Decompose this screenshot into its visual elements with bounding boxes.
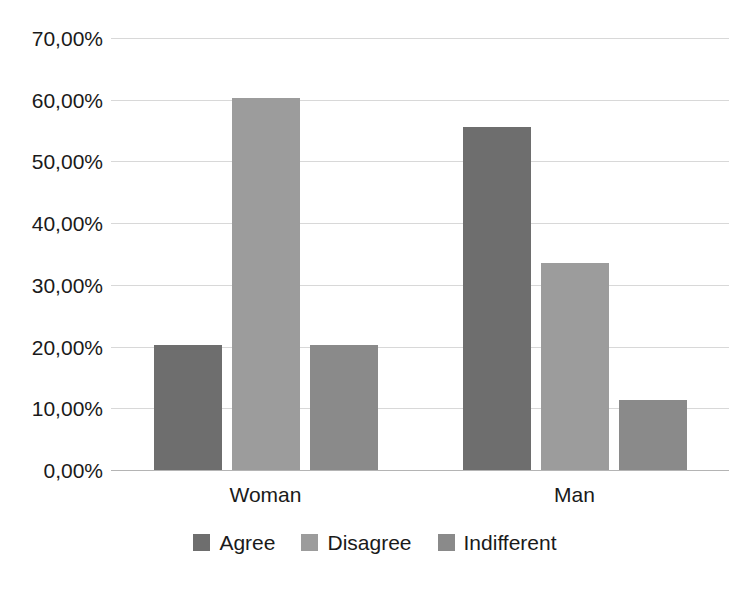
bar-agree-woman	[154, 345, 222, 470]
legend-label: Indifferent	[464, 532, 557, 553]
y-axis-tick-label: 10,00%	[3, 398, 103, 419]
legend-item-disagree[interactable]: Disagree	[301, 532, 411, 553]
chart-title-cropped	[0, 0, 750, 11]
y-axis-tick-label: 50,00%	[3, 151, 103, 172]
x-axis-category-label: Man	[475, 484, 675, 506]
gridline	[111, 285, 729, 286]
bar-disagree-man	[541, 263, 609, 470]
bar-indifferent-man	[619, 400, 687, 470]
bar-chart: 0,00%10,00%20,00%30,00%40,00%50,00%60,00…	[0, 0, 750, 594]
y-axis-tick-label: 40,00%	[3, 213, 103, 234]
y-axis-tick-label: 30,00%	[3, 275, 103, 296]
x-axis-line	[111, 470, 729, 471]
chart-legend: AgreeDisagreeIndifferent	[0, 532, 750, 553]
y-axis-labels: 0,00%10,00%20,00%30,00%40,00%50,00%60,00…	[0, 38, 103, 470]
gridline	[111, 223, 729, 224]
legend-item-indifferent[interactable]: Indifferent	[438, 532, 557, 553]
legend-swatch-icon	[438, 534, 455, 551]
x-axis-category-label: Woman	[166, 484, 366, 506]
y-axis-tick-label: 20,00%	[3, 337, 103, 358]
y-axis-tick-label: 60,00%	[3, 90, 103, 111]
legend-label: Agree	[219, 532, 275, 553]
legend-swatch-icon	[301, 534, 318, 551]
bar-disagree-woman	[232, 98, 300, 470]
gridline	[111, 38, 729, 39]
gridline	[111, 161, 729, 162]
bar-indifferent-woman	[310, 345, 378, 470]
y-axis-tick-label: 70,00%	[3, 28, 103, 49]
plot-area	[111, 38, 729, 470]
bar-agree-man	[463, 127, 531, 470]
legend-label: Disagree	[327, 532, 411, 553]
legend-swatch-icon	[193, 534, 210, 551]
y-axis-tick-label: 0,00%	[3, 460, 103, 481]
legend-item-agree[interactable]: Agree	[193, 532, 275, 553]
gridline	[111, 100, 729, 101]
